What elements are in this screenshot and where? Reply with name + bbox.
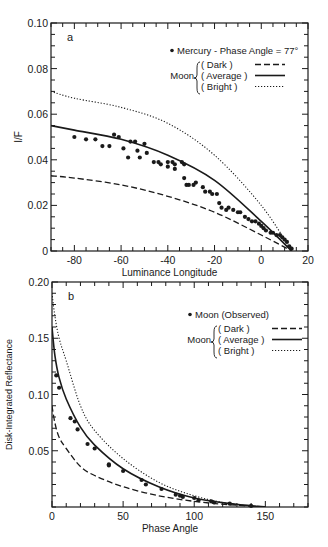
x-tick-label: 0 [49, 510, 55, 522]
curve-dashed [52, 406, 265, 507]
data-point [174, 493, 178, 497]
figure: -80-60-40-2002000.020.040.060.080.10Lumi… [0, 0, 328, 547]
data-point [215, 192, 219, 196]
legend-entry-label: ( Dark ) [218, 323, 250, 334]
chart-panel-b: 0501001500.050.100.150.20Phase AngleDisk… [4, 276, 308, 534]
y-tick-label: 0.02 [28, 199, 49, 211]
data-point [107, 144, 111, 148]
panel-label: a [67, 31, 74, 43]
data-point [187, 183, 191, 187]
x-tick-label: -60 [113, 254, 128, 266]
chart-canvas: -80-60-40-2002000.020.040.060.080.10Lumi… [0, 0, 328, 547]
data-point [290, 247, 294, 251]
data-point [201, 185, 205, 189]
data-point [142, 142, 146, 146]
data-point [72, 135, 76, 139]
data-point [140, 478, 144, 482]
y-tick-label: 0.08 [28, 63, 49, 75]
legend-entry-label: ( Average ) [218, 334, 264, 345]
legend-group-label: Moon [187, 334, 211, 345]
plot-frame [51, 23, 308, 251]
data-point [238, 210, 242, 214]
data-point [145, 151, 149, 155]
legend-entry-label: ( Bright ) [218, 345, 254, 356]
data-point [117, 135, 121, 139]
legend-entry-label: ( Bright ) [201, 81, 237, 92]
data-point [264, 228, 268, 232]
x-tick-label: -80 [67, 254, 82, 266]
curve-dotted [51, 91, 292, 251]
legend-group-label: Moon [170, 70, 194, 81]
x-axis-label: Luminance Longitude [122, 267, 218, 278]
y-tick-label: 0.04 [28, 154, 49, 166]
plot-frame [52, 282, 308, 507]
curve-solid [51, 126, 292, 251]
data-point [121, 469, 125, 473]
legend: Moon (Observed)Moon( Dark )( Average )( … [187, 309, 302, 358]
legend-entry-label: ( Dark ) [201, 59, 233, 70]
data-point [173, 162, 177, 166]
y-tick-label: 0.05 [29, 445, 50, 457]
legend-point-label: Moon (Observed) [195, 309, 269, 320]
y-tick-label: 0.10 [29, 389, 50, 401]
data-point [249, 504, 253, 508]
data-point [285, 240, 289, 244]
data-point [107, 463, 111, 467]
data-point [166, 160, 170, 164]
data-point [84, 137, 88, 141]
data-point [192, 496, 196, 500]
data-point [246, 217, 250, 221]
y-tick-label: 0.10 [28, 17, 49, 29]
data-point [73, 419, 77, 423]
data-point [144, 482, 148, 486]
x-axis-label: Phase Angle [142, 523, 199, 534]
curve-dashed [51, 176, 292, 251]
data-point [181, 495, 185, 499]
data-point [159, 162, 163, 166]
data-point [173, 167, 177, 171]
data-point [126, 155, 130, 159]
data-point [152, 160, 156, 164]
x-tick-label: 50 [117, 510, 129, 522]
data-point [57, 386, 61, 390]
data-point [271, 231, 275, 235]
data-point [217, 201, 221, 205]
data-point [100, 144, 104, 148]
data-point [133, 139, 137, 143]
data-point [228, 502, 232, 506]
legend-brace [194, 62, 200, 94]
panel-label: b [68, 290, 74, 302]
x-tick-label: -20 [207, 254, 222, 266]
data-point [212, 500, 216, 504]
data-point [182, 176, 186, 180]
data-point [253, 219, 257, 223]
legend-point-label: Mercury - Phase Angle = 77° [177, 45, 298, 56]
legend-brace [211, 326, 217, 358]
data-point [203, 190, 207, 194]
data-point [76, 427, 80, 431]
data-point [226, 206, 230, 210]
data-point [128, 139, 132, 143]
data-point [54, 373, 58, 377]
data-point [196, 498, 200, 502]
y-axis-label: Disk-Integrated Reflectance [4, 339, 14, 450]
data-point [93, 137, 97, 141]
data-point [112, 133, 116, 137]
data-point [194, 181, 198, 185]
y-tick-label: 0.06 [28, 108, 49, 120]
data-point [182, 162, 186, 166]
chart-panel-a: -80-60-40-2002000.020.040.060.080.10Lumi… [13, 17, 314, 278]
y-tick-label: 0.20 [29, 276, 50, 288]
y-tick-label: 0.15 [29, 332, 50, 344]
data-point [166, 165, 170, 169]
data-point [85, 442, 89, 446]
y-axis-label: I/F [13, 131, 24, 143]
data-point [93, 446, 97, 450]
data-point [68, 416, 72, 420]
x-tick-label: 100 [185, 510, 203, 522]
x-tick-label: 150 [257, 510, 275, 522]
legend-point-marker [188, 313, 192, 317]
data-point [121, 146, 125, 150]
x-tick-label: 0 [258, 254, 264, 266]
legend: Mercury - Phase Angle = 77°Moon( Dark )(… [170, 45, 298, 94]
